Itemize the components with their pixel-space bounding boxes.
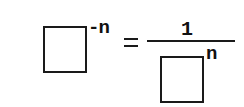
denominator-exponent: n (206, 45, 217, 64)
equals-sign (124, 38, 138, 47)
denominator-base-square-placeholder (160, 56, 204, 103)
left-base-square-placeholder (43, 26, 87, 73)
fraction-numerator: 1 (181, 20, 193, 40)
fraction-bar (147, 40, 235, 42)
left-exponent: -n (88, 19, 109, 38)
